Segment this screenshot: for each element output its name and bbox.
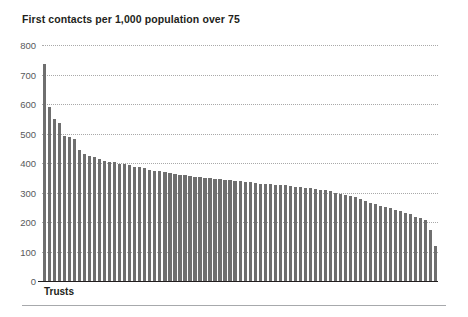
bar [409,214,412,281]
bar [153,171,156,281]
bar [173,174,176,281]
bar [349,196,352,281]
chart-figure: First contacts per 1,000 population over… [0,0,468,317]
bar [394,210,397,281]
bar [279,185,282,281]
bar [188,176,191,281]
bar [284,185,287,281]
y-axis-tick-labels: 8007006005004003002001000 [0,45,36,281]
chart-title: First contacts per 1,000 population over… [22,13,240,25]
bar [424,220,427,281]
bar [384,207,387,281]
bar [304,188,307,281]
y-tick-label-700: 700 [20,69,36,80]
bar [404,213,407,281]
plot-area [42,45,438,281]
bar [334,193,337,282]
bar [399,211,402,281]
bar [319,190,322,281]
bar [53,119,56,281]
bar [133,167,136,281]
y-tick-label-600: 600 [20,99,36,110]
bar [78,150,81,281]
bar [329,191,332,281]
bar [158,171,161,281]
bar [203,178,206,281]
bar [223,180,226,281]
bar [294,187,297,281]
bar [254,183,257,281]
y-tick-label-100: 100 [20,246,36,257]
y-tick-label-800: 800 [20,40,36,51]
bar [43,64,46,281]
y-tick-label-500: 500 [20,128,36,139]
y-tick-label-300: 300 [20,187,36,198]
y-tick-label-200: 200 [20,217,36,228]
bar [289,186,292,281]
bar [98,159,101,281]
footer-divider [22,305,446,306]
bar [218,179,221,281]
bar [359,199,362,281]
bar [369,203,372,281]
bar [239,181,242,281]
bar [374,204,377,281]
bar [118,164,121,281]
bar [58,123,61,281]
bar [73,139,76,281]
bar [63,136,66,281]
bar [143,168,146,281]
bar [434,246,437,281]
bar [48,107,51,281]
bar [249,182,252,281]
bar [244,182,247,281]
bar [168,173,171,281]
bar [103,161,106,281]
bar [429,230,432,281]
x-axis-label: Trusts [44,286,74,297]
bar [183,175,186,281]
bar [339,194,342,281]
bar [83,154,86,281]
bar [213,179,216,281]
bar [379,206,382,281]
bar [128,165,131,281]
bar [314,189,317,281]
bar [198,177,201,281]
bar [233,181,236,281]
bar [208,178,211,281]
bar [344,195,347,281]
bar [269,184,272,281]
bar [148,170,151,282]
bar [354,197,357,281]
y-tick-label-400: 400 [20,158,36,169]
bar [108,162,111,281]
bar [414,217,417,281]
bar [324,190,327,281]
bar [163,172,166,281]
bar [264,184,267,281]
y-tick-label-0: 0 [31,276,36,287]
bar [419,218,422,281]
bar [138,167,141,281]
bar [68,137,71,281]
bar [93,157,96,281]
bar [274,185,277,281]
bar [364,201,367,281]
bar [113,162,116,281]
bar [193,177,196,281]
bar [88,156,91,281]
bar [389,208,392,281]
bar [123,164,126,281]
bar [259,184,262,281]
bar-series [42,45,438,281]
axis-baseline [38,281,438,282]
bar [309,188,312,281]
bar [178,175,181,281]
bar [299,187,302,281]
bar [228,180,231,281]
